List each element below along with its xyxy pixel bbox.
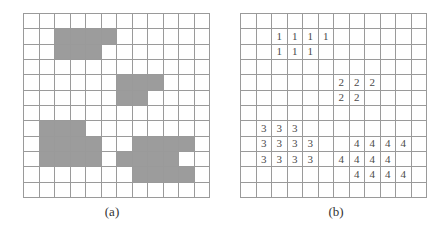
- grid-cell: [133, 106, 149, 121]
- grid-cell: [365, 60, 381, 75]
- grid-cell: [396, 45, 412, 60]
- grid-cell: [24, 45, 40, 60]
- grid-cell: [133, 45, 149, 60]
- grid-cell-shaded: [148, 167, 164, 182]
- grid-cell-label: 2: [334, 91, 350, 106]
- grid-cell: [381, 60, 397, 75]
- grid-cell: [257, 29, 273, 44]
- grid-cell: [319, 183, 335, 198]
- grid-cell: [148, 14, 164, 29]
- grid-cell: [288, 106, 304, 121]
- grid-cell: [71, 14, 87, 29]
- grid-cell: [117, 45, 133, 60]
- grid-cell: [102, 75, 118, 90]
- grid-cell: [241, 183, 257, 198]
- grid-cell: [86, 75, 102, 90]
- grid-cell: [257, 75, 273, 90]
- grid-cell-shaded: [71, 137, 87, 152]
- grid-cell: [257, 106, 273, 121]
- grid-cell: [334, 106, 350, 121]
- grid-cell: [257, 14, 273, 29]
- grid-cell: [381, 106, 397, 121]
- grid-cell: [195, 29, 211, 44]
- grid-cell: [288, 60, 304, 75]
- grid-cell-shaded: [71, 121, 87, 136]
- grid-cell-label: 1: [288, 29, 304, 44]
- grid-cell: [71, 60, 87, 75]
- grid-cell: [241, 60, 257, 75]
- labeled-grid: 11111112222233333334444333344444444: [240, 13, 427, 198]
- grid-cell: [164, 14, 180, 29]
- grid-cell: [365, 121, 381, 136]
- grid-cell: [412, 14, 428, 29]
- grid-cell: [102, 60, 118, 75]
- grid-cell: [148, 45, 164, 60]
- grid-cell: [24, 121, 40, 136]
- grid-cell: [303, 121, 319, 136]
- grid-cell: [381, 121, 397, 136]
- grid-cell: [179, 75, 195, 90]
- grid-cell: [412, 152, 428, 167]
- grid-cell: [241, 29, 257, 44]
- grid-cell: [71, 75, 87, 90]
- grid-cell: [148, 91, 164, 106]
- grid-cell: [350, 29, 366, 44]
- grid-cell: [241, 45, 257, 60]
- grid-cell: [195, 45, 211, 60]
- grid-cell: [55, 183, 71, 198]
- grid-cell: [381, 91, 397, 106]
- grid-cell: [288, 91, 304, 106]
- grid-cell-shaded: [102, 29, 118, 44]
- grid-cell: [195, 121, 211, 136]
- grid-cell-shaded: [86, 29, 102, 44]
- grid-cell-label: 3: [303, 152, 319, 167]
- grid-cell-label: 4: [350, 167, 366, 182]
- grid-cell: [288, 183, 304, 198]
- grid-cell-shaded: [148, 152, 164, 167]
- grid-cell-shaded: [117, 91, 133, 106]
- grid-cell-shaded: [148, 75, 164, 90]
- grid-cell: [272, 183, 288, 198]
- grid-cell: [412, 91, 428, 106]
- grid-cell: [350, 121, 366, 136]
- grid-cell-label: 3: [272, 137, 288, 152]
- grid-cell: [133, 14, 149, 29]
- grid-cell-label: 3: [257, 137, 273, 152]
- grid-cell-shaded: [164, 137, 180, 152]
- grid-cell: [133, 121, 149, 136]
- grid-cell-shaded: [117, 75, 133, 90]
- grid-cell: [24, 75, 40, 90]
- grid-cell: [396, 121, 412, 136]
- grid-cell-label: 1: [303, 29, 319, 44]
- grid-cell: [381, 29, 397, 44]
- grid-cell: [164, 45, 180, 60]
- panel-b: 11111112222233333334444333344444444 (b): [224, 0, 448, 228]
- grid-cell: [148, 29, 164, 44]
- grid-cell: [102, 152, 118, 167]
- grid-cell: [179, 121, 195, 136]
- grid-cell-label: 3: [288, 137, 304, 152]
- grid-cell: [241, 14, 257, 29]
- grid-cell-label: 2: [365, 75, 381, 90]
- grid-cell-label: 3: [272, 121, 288, 136]
- grid-cell-shaded: [86, 45, 102, 60]
- grid-cell: [117, 183, 133, 198]
- grid-cell: [102, 121, 118, 136]
- grid-cell-label: 2: [350, 75, 366, 90]
- grid-cell: [241, 121, 257, 136]
- grid-cell-label: 4: [396, 167, 412, 182]
- grid-cell: [24, 91, 40, 106]
- grid-cell: [303, 106, 319, 121]
- grid-cell-shaded: [164, 167, 180, 182]
- grid-cell: [257, 45, 273, 60]
- grid-cell: [102, 14, 118, 29]
- grid-cell-shaded: [55, 152, 71, 167]
- grid-cell: [86, 183, 102, 198]
- grid-cell: [334, 60, 350, 75]
- grid-cell: [319, 167, 335, 182]
- grid-cell-label: 4: [334, 152, 350, 167]
- grid-cell: [288, 14, 304, 29]
- grid-cell: [179, 45, 195, 60]
- grid-cell: [303, 75, 319, 90]
- grid-cell-shaded: [55, 29, 71, 44]
